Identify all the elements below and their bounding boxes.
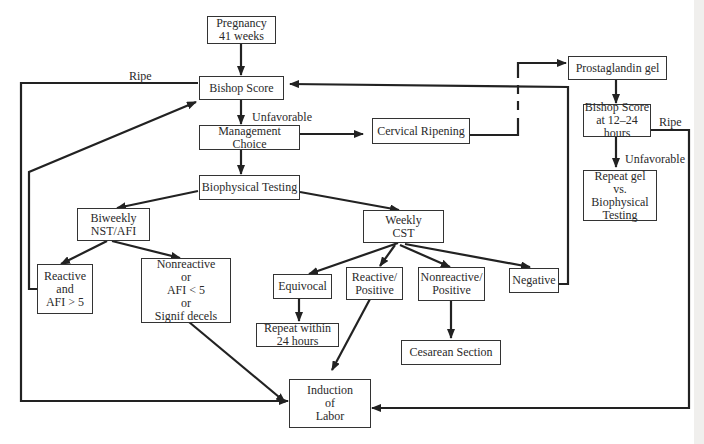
node-biophysical-testing: Biophysical Testing	[199, 175, 300, 200]
label-ripe-left: Ripe	[129, 70, 152, 83]
node-induction-of-labor: Induction of Labor	[289, 379, 371, 428]
node-bishop-score-12-24: Bishop Score at 12–24 hours	[583, 104, 651, 137]
node-biweekly-nst-afi: Biweekly NST/AFI	[77, 208, 150, 241]
node-nonreactive-afi: Nonreactive or AFI < 5 or Signif decels	[141, 258, 231, 323]
node-reactive-positive: Reactive/ Positive	[346, 267, 403, 300]
node-nonreactive-positive: Nonreactive/ Positive	[418, 267, 485, 301]
node-weekly-cst: Weekly CST	[363, 210, 444, 243]
label-unfavorable-main: Unfavorable	[252, 111, 312, 124]
node-management-choice: Management Choice	[199, 125, 300, 150]
node-repeat-gel: Repeat gel vs. Biophysical Testing	[583, 170, 657, 221]
node-reactive-afi: Reactive and AFI > 5	[37, 264, 93, 314]
node-prostaglandin-gel: Prostaglandin gel	[568, 56, 667, 80]
node-negative: Negative	[509, 268, 559, 293]
label-unfavorable-right: Unfavorable	[625, 153, 685, 166]
label-ripe-right: Ripe	[659, 116, 682, 129]
node-repeat-within-24: Repeat within 24 hours	[256, 323, 339, 347]
node-bishop-score: Bishop Score	[199, 76, 284, 100]
node-cervical-ripening: Cervical Ripening	[372, 118, 470, 144]
page-edge	[694, 0, 704, 444]
node-equivocal: Equivocal	[273, 274, 332, 299]
node-cesarean-section: Cesarean Section	[401, 340, 501, 365]
node-pregnancy: Pregnancy 41 weeks	[207, 16, 276, 44]
